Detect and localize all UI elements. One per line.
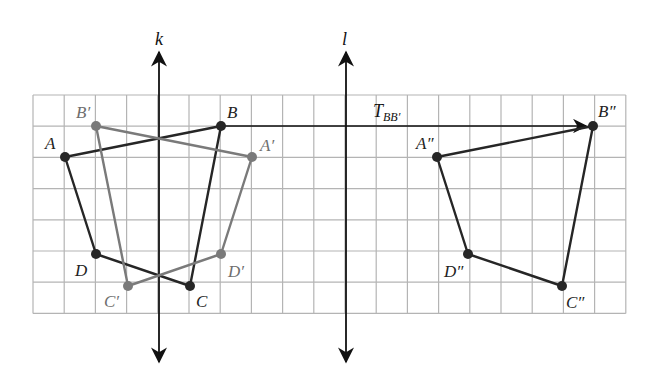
polygons	[60, 121, 598, 291]
line-label-l: l	[342, 30, 347, 48]
vertex-label: C	[196, 293, 207, 310]
vertex-point	[216, 121, 226, 131]
reflection-lines	[159, 52, 346, 362]
vertex-label: A	[45, 135, 55, 152]
translation-label: TBB′	[373, 102, 400, 123]
vertex-label: D″	[444, 263, 463, 280]
vertex-label: A″	[416, 135, 433, 152]
vertex-point	[557, 281, 567, 291]
vertex-label: B″	[598, 103, 615, 120]
diagram-canvas	[0, 0, 661, 379]
vertex-label: D′	[228, 263, 244, 280]
vertex-point	[91, 121, 101, 131]
vertex-point	[123, 281, 133, 291]
vertex-point	[60, 152, 70, 162]
translation-label-main: T	[373, 101, 383, 121]
vertex-point	[185, 281, 195, 291]
line-label-k: k	[155, 30, 163, 48]
vertex-label: C′	[104, 293, 119, 310]
vertex-point	[216, 249, 226, 259]
vertex-point	[463, 249, 473, 259]
vertex-label: B′	[76, 104, 90, 121]
vertex-point	[432, 152, 442, 162]
vertex-label: B	[227, 104, 237, 121]
translation-label-subscript: BB′	[383, 110, 400, 124]
vertex-label: D	[75, 262, 87, 279]
vertex-point	[91, 249, 101, 259]
grid	[33, 95, 626, 313]
vertex-label: C″	[566, 294, 584, 311]
vertex-label: A′	[260, 137, 274, 154]
vertex-point	[247, 152, 257, 162]
vertex-point	[588, 121, 598, 131]
